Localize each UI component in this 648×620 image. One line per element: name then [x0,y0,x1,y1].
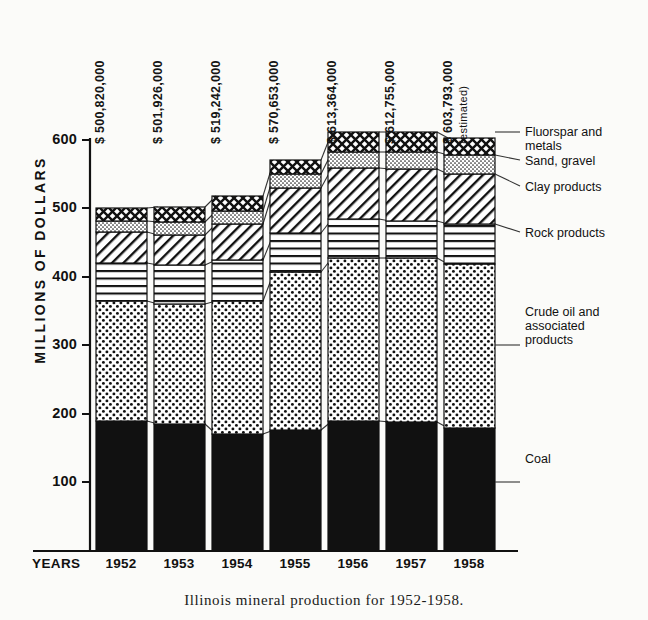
legend-label-fluorspar: Fluorspar and metals [525,125,602,153]
legend-label-rock: Rock products [525,226,605,240]
chart-page: $ 500,820,000 $ 501,926,000 $ 519,242,00… [0,0,648,620]
total-labels-group: $ 500,820,000 $ 501,926,000 $ 519,242,00… [0,0,648,140]
bar-1958 [444,138,495,551]
legend-leader-lines [495,132,520,482]
bar-1956 [328,132,379,551]
ytick-200: 200 [33,405,77,421]
bar-1953 [154,207,205,551]
ytick-100: 100 [33,473,77,489]
bar-1957 [386,132,437,551]
xtick-1953: 1953 [152,556,206,571]
figure-caption: Illinois mineral production for 1952-195… [0,592,648,609]
legend-label-coal: Coal [525,452,551,466]
total-label-1957: $ 612,755,000 [383,60,397,144]
legend-label-sand: Sand, gravel [525,154,595,168]
bar-1955 [270,160,321,551]
total-label-1958-estimated-note: (estimated) [456,86,470,144]
xtick-1956: 1956 [326,556,380,571]
total-label-1956: $ 613,364,000 [325,60,339,144]
total-label-1955: $ 570,653,000 [267,60,281,144]
legend-label-clay: Clay products [525,180,601,194]
total-label-1954: $ 519,242,000 [209,60,223,144]
total-label-1958: $ 603,793,000 [441,60,455,144]
xtick-1957: 1957 [384,556,438,571]
xtick-1954: 1954 [210,556,264,571]
xtick-1952: 1952 [94,556,148,571]
years-axis-label: YEARS [32,556,81,571]
y-axis-title: MILLIONS OF DOLLARS [32,150,48,370]
bar-1952 [96,208,147,551]
ytick-600: 600 [33,131,77,147]
xtick-1955: 1955 [268,556,322,571]
xtick-1958: 1958 [442,556,496,571]
total-label-1952: $ 500,820,000 [93,60,107,144]
bar-1954 [212,196,263,551]
total-label-1953: $ 501,926,000 [151,60,165,144]
legend-label-crude-oil: Crude oil and associated products [525,305,599,347]
